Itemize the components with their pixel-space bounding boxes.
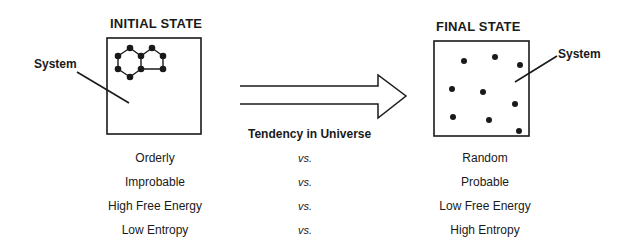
final-state-title: FINAL STATE bbox=[436, 19, 521, 34]
comparison-left: Low Entropy bbox=[75, 223, 235, 237]
comparison-separator: vs. bbox=[285, 152, 325, 164]
ordered-molecule-icon bbox=[115, 45, 165, 79]
initial-system-label: System bbox=[34, 57, 77, 71]
tendency-arrow-icon bbox=[240, 75, 406, 118]
comparison-separator: vs. bbox=[285, 200, 325, 212]
initial-system-pointer bbox=[77, 72, 129, 103]
arrow-label: Tendency in Universe bbox=[248, 127, 371, 141]
comparison-left: High Free Energy bbox=[75, 199, 235, 213]
comparison-left: Improbable bbox=[75, 175, 235, 189]
comparison-separator: vs. bbox=[285, 224, 325, 236]
initial-state-title: INITIAL STATE bbox=[110, 16, 202, 31]
final-system-box bbox=[434, 41, 529, 136]
initial-system-box bbox=[107, 38, 201, 134]
comparison-left: Orderly bbox=[75, 151, 235, 165]
comparison-right: Random bbox=[405, 151, 565, 165]
comparison-right: High Entropy bbox=[405, 223, 565, 237]
comparison-right: Low Free Energy bbox=[405, 199, 565, 213]
final-system-label: System bbox=[558, 47, 601, 61]
random-particles-icon bbox=[449, 54, 523, 134]
final-system-pointer bbox=[515, 56, 557, 82]
comparison-separator: vs. bbox=[285, 176, 325, 188]
comparison-right: Probable bbox=[405, 175, 565, 189]
diagram-graphics bbox=[0, 0, 637, 252]
